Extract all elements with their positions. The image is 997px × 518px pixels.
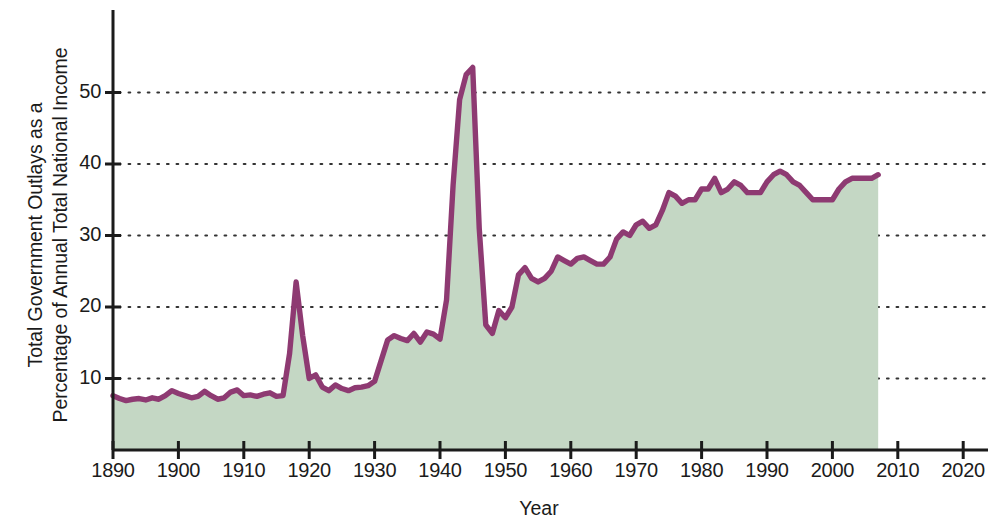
x-tick-label: 1890 <box>78 459 148 482</box>
x-tick-label: 1940 <box>405 459 475 482</box>
x-tick-label: 1990 <box>732 459 802 482</box>
y-tick-label: 40 <box>55 151 101 174</box>
government-outlays-area-chart: Total Government Outlays as a Percentage… <box>0 0 997 518</box>
x-tick-label: 2010 <box>863 459 933 482</box>
y-tick-label: 50 <box>55 80 101 103</box>
x-tick-label: 1970 <box>601 459 671 482</box>
x-tick-label: 2020 <box>928 459 997 482</box>
y-tick-label: 30 <box>55 223 101 246</box>
y-tick-label: 10 <box>55 366 101 389</box>
x-tick-label: 1920 <box>274 459 344 482</box>
chart-plot-area <box>0 0 997 518</box>
x-tick-label: 1980 <box>667 459 737 482</box>
x-tick-label: 1960 <box>536 459 606 482</box>
x-tick-label: 2000 <box>797 459 867 482</box>
x-axis-title: Year <box>113 497 965 518</box>
x-tick-label: 1900 <box>143 459 213 482</box>
x-tick-label: 1930 <box>340 459 410 482</box>
x-tick-label: 1950 <box>470 459 540 482</box>
x-tick-label: 1910 <box>209 459 279 482</box>
y-tick-label: 20 <box>55 294 101 317</box>
